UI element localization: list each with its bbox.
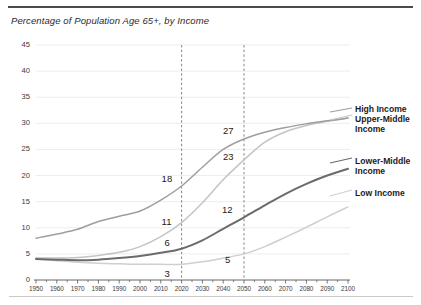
line-chart-canvas — [0, 0, 421, 305]
data-label-low-income-2050: 5 — [225, 254, 230, 265]
data-label-high-income-2050: 27 — [223, 125, 234, 136]
data-label-upper-middle-income-2020: 11 — [162, 216, 172, 227]
y-axis-tick-5: 5 — [14, 249, 30, 258]
series-line-high-income — [36, 118, 348, 238]
legend-label-lower-middle-income: Lower-Middle Income — [355, 156, 421, 176]
series-line-upper-middle-income — [36, 118, 348, 258]
chart-figure: 051015202530354045 195019601970198019902… — [0, 0, 421, 305]
x-axis-tick-2010: 2010 — [150, 285, 172, 292]
legend-label-low-income: Low Income — [355, 188, 405, 198]
x-axis-tick-1980: 1980 — [87, 285, 109, 292]
x-axis-tick-1950: 1950 — [25, 285, 47, 292]
x-axis-tick-2040: 2040 — [212, 285, 234, 292]
y-axis-tick-10: 10 — [14, 223, 30, 232]
legend-item-low-income: Low Income — [355, 188, 405, 198]
legend-leader-line — [330, 108, 352, 112]
data-label-upper-middle-income-2050: 23 — [223, 151, 234, 162]
legend-leader-line — [330, 190, 352, 196]
y-axis-tick-45: 45 — [14, 40, 30, 49]
x-axis-tick-2100: 2100 — [337, 285, 359, 292]
x-axis-tick-2050: 2050 — [233, 285, 255, 292]
x-axis-tick-2020: 2020 — [171, 285, 193, 292]
data-label-low-income-2020: 3 — [165, 268, 170, 279]
y-axis-tick-25: 25 — [14, 144, 30, 153]
y-axis-tick-30: 30 — [14, 118, 30, 127]
x-axis-tick-2000: 2000 — [129, 285, 151, 292]
legend-leader-line — [330, 158, 352, 163]
legend-label-high-income: High Income — [355, 104, 421, 114]
y-axis-tick-0: 0 — [14, 275, 30, 284]
series-line-low-income — [36, 207, 348, 265]
legend-item-lower-middle-income: Lower-Middle Income — [355, 156, 421, 176]
y-axis-tick-20: 20 — [14, 171, 30, 180]
footer-rule — [9, 296, 413, 297]
gridlines-group — [36, 45, 350, 254]
y-axis-tick-40: 40 — [14, 66, 30, 75]
y-axis-tick-15: 15 — [14, 197, 30, 206]
legend-leader-lines — [330, 108, 352, 196]
x-axis-tick-2070: 2070 — [275, 285, 297, 292]
x-axis-tick-2060: 2060 — [254, 285, 276, 292]
data-label-lower-middle-income-2050: 12 — [222, 204, 233, 215]
x-axis-tick-1990: 1990 — [108, 285, 130, 292]
y-axis-tick-35: 35 — [14, 92, 30, 101]
x-axis-tick-1960: 1960 — [46, 285, 68, 292]
legend-label-upper-middle-income: Upper-Middle Income — [355, 114, 421, 134]
x-axis-tick-2030: 2030 — [191, 285, 213, 292]
x-axis-tick-2080: 2080 — [295, 285, 317, 292]
series-lines-group — [36, 118, 348, 264]
series-line-lower-middle-income — [36, 169, 348, 260]
data-label-high-income-2020: 18 — [162, 173, 173, 184]
legend-item-high-income: High Income Upper-Middle Income — [355, 104, 421, 135]
data-label-lower-middle-income-2020: 6 — [165, 237, 170, 248]
x-axis-tick-2090: 2090 — [316, 285, 338, 292]
axis-group — [34, 280, 350, 284]
x-axis-tick-1970: 1970 — [67, 285, 89, 292]
